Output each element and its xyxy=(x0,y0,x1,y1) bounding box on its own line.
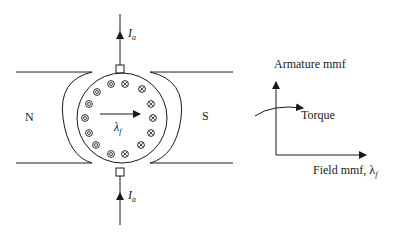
south-pole xyxy=(150,72,233,163)
current-arrow-up-icon xyxy=(116,31,124,39)
top-armature-lead xyxy=(116,14,124,73)
top-current-label: Ia xyxy=(128,27,136,42)
torque-label: Torque xyxy=(301,109,335,121)
top-brush xyxy=(116,65,124,73)
current-arrow-up-icon xyxy=(116,192,124,200)
conductors-in xyxy=(122,81,157,158)
bottom-brush xyxy=(116,168,124,176)
y-axis-label: Armature mmf xyxy=(274,58,346,70)
dc-machine-diagram xyxy=(0,0,396,234)
torque-curve xyxy=(255,107,303,116)
bottom-current-label: Ia xyxy=(128,189,136,204)
x-axis-label: Field mmf, λf xyxy=(313,164,377,179)
south-pole-label: S xyxy=(202,110,209,122)
field-flux-label: λf xyxy=(114,121,121,136)
bottom-armature-lead xyxy=(116,168,124,225)
north-pole-label: N xyxy=(25,111,34,123)
